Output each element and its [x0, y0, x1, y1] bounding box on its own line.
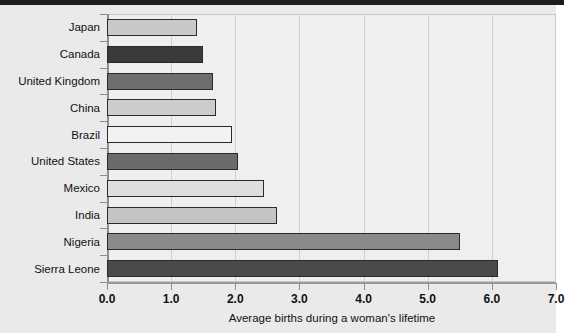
y-tick-mark	[100, 94, 107, 95]
category-label: India	[0, 209, 100, 221]
y-tick-mark	[100, 121, 107, 122]
y-tick-mark	[100, 41, 107, 42]
category-label: Mexico	[0, 182, 100, 194]
y-tick-mark	[100, 68, 107, 69]
x-tick-mark	[492, 283, 493, 290]
y-tick-mark	[100, 202, 107, 203]
category-label: Canada	[0, 48, 100, 60]
x-tick-mark	[428, 283, 429, 290]
x-tick-label: 5.0	[408, 292, 448, 306]
y-tick-mark	[100, 175, 107, 176]
x-axis-spine	[107, 282, 556, 284]
x-tick-label: 3.0	[279, 292, 319, 306]
bars-layer	[107, 14, 556, 282]
x-tick-mark	[171, 283, 172, 290]
x-tick-mark	[556, 283, 557, 290]
x-tick-label: 0.0	[87, 292, 127, 306]
bar	[107, 19, 197, 36]
x-tick-mark	[235, 283, 236, 290]
x-tick-label: 1.0	[151, 292, 191, 306]
category-label: Nigeria	[0, 236, 100, 248]
bar	[107, 46, 203, 63]
x-tick-mark	[299, 283, 300, 290]
bar	[107, 99, 216, 116]
y-tick-mark	[100, 255, 107, 256]
bar	[107, 73, 213, 90]
y-tick-mark	[100, 14, 107, 15]
bar	[107, 180, 264, 197]
y-tick-mark	[100, 282, 107, 283]
category-label: Japan	[0, 21, 100, 33]
y-tick-mark	[100, 148, 107, 149]
category-label: China	[0, 102, 100, 114]
x-axis-title: Average births during a woman's lifetime	[0, 312, 564, 324]
category-label: United Kingdom	[0, 75, 100, 87]
bar	[107, 153, 238, 170]
bar	[107, 126, 232, 143]
bar	[107, 207, 277, 224]
category-label: United States	[0, 155, 100, 167]
x-tick-mark	[364, 283, 365, 290]
x-axis-title-text: Average births during a woman's lifetime	[129, 312, 436, 324]
x-tick-label: 7.0	[536, 292, 569, 306]
bar	[107, 233, 460, 250]
y-tick-mark	[100, 228, 107, 229]
category-labels: JapanCanadaUnited KingdomChinaBrazilUnit…	[0, 14, 100, 282]
x-tick-label: 4.0	[344, 292, 384, 306]
bar	[107, 260, 498, 277]
category-label: Sierra Leone	[0, 263, 100, 275]
x-tick-label: 2.0	[215, 292, 255, 306]
x-tick-mark	[107, 283, 108, 290]
category-label: Brazil	[0, 129, 100, 141]
x-tick-label: 6.0	[472, 292, 512, 306]
